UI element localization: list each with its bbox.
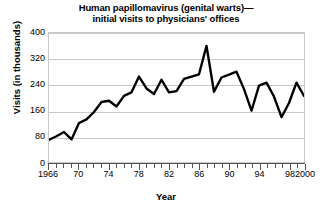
x-axis-tick <box>275 164 276 168</box>
x-axis-tick <box>101 164 102 168</box>
x-axis-tick <box>93 164 94 168</box>
x-axis <box>48 163 305 169</box>
x-axis-tick <box>297 164 298 168</box>
x-axis-tick-label: 82 <box>164 170 174 179</box>
x-axis-tick <box>124 164 125 168</box>
x-axis-tick-label: 74 <box>103 170 113 179</box>
x-axis-tick <box>116 164 117 168</box>
chart-title: Human papillomavirus (genital warts)— in… <box>0 2 332 24</box>
y-axis-tick-label: 0 <box>3 159 45 168</box>
x-axis-tick <box>56 164 57 168</box>
chart-figure: Human papillomavirus (genital warts)— in… <box>0 0 332 213</box>
x-axis-tick-labels: 196670747882869094982000 <box>0 170 332 182</box>
x-axis-tick <box>154 164 155 168</box>
x-axis-tick <box>267 164 268 168</box>
x-axis-tick-label: 94 <box>255 170 265 179</box>
x-axis-tick-label: 78 <box>134 170 144 179</box>
x-axis-tick <box>214 164 215 168</box>
x-axis-tick-label: 70 <box>73 170 83 179</box>
y-axis-tick-label: 80 <box>3 132 45 141</box>
y-axis-tick-label: 160 <box>3 106 45 115</box>
x-axis-tick <box>131 164 132 168</box>
x-axis-tick <box>86 164 87 168</box>
x-axis-tick <box>237 164 238 168</box>
x-axis-tick-label: 1966 <box>38 170 58 179</box>
x-axis-tick-label: 86 <box>194 170 204 179</box>
chart-title-line-1: Human papillomavirus (genital warts)— <box>0 2 332 13</box>
x-axis-tick-label: 90 <box>224 170 234 179</box>
x-axis-tick <box>245 164 246 168</box>
x-axis-tick <box>222 164 223 168</box>
x-axis-tick <box>252 164 253 168</box>
data-line-series <box>49 33 304 162</box>
y-axis-tick-label: 400 <box>3 28 45 37</box>
plot-area <box>48 32 305 163</box>
x-axis-tick <box>71 164 72 168</box>
x-axis-tick <box>146 164 147 168</box>
x-axis-tick-label: 2000 <box>295 170 315 179</box>
chart-title-line-2: initial visits to physicians' offices <box>0 13 332 24</box>
x-axis-tick <box>192 164 193 168</box>
x-axis-tick <box>177 164 178 168</box>
x-axis-tick <box>161 164 162 168</box>
y-axis-tick-label: 240 <box>3 80 45 89</box>
x-axis-title: Year <box>0 191 332 202</box>
x-axis-tick <box>207 164 208 168</box>
y-axis-tick-label: 320 <box>3 54 45 63</box>
x-axis-tick <box>63 164 64 168</box>
x-axis-tick-label: 98 <box>285 170 295 179</box>
x-axis-tick <box>282 164 283 168</box>
x-axis-tick <box>184 164 185 168</box>
